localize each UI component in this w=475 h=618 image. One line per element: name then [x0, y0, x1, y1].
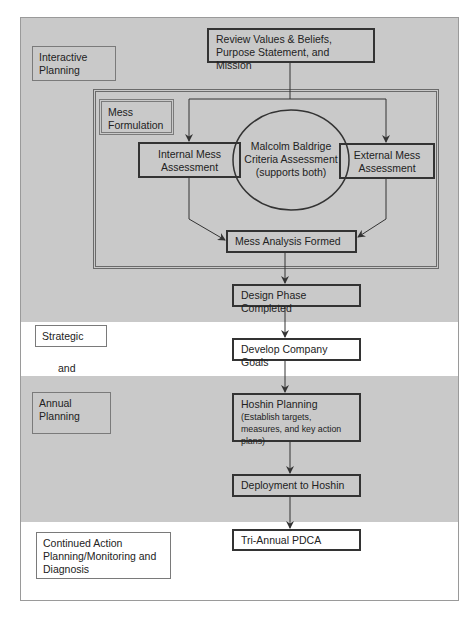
- internal-mess-node: Internal Mess Assessment: [138, 142, 241, 178]
- annual-planning-label: Annual Planning: [32, 392, 111, 434]
- deployment-node: Deployment to Hoshin: [232, 474, 361, 497]
- hoshin-planning-node: Hoshin Planning (Establish targets, meas…: [232, 393, 361, 442]
- tri-annual-pdca-node: Tri-Annual PDCA: [232, 529, 361, 551]
- design-phase-node: Design Phase Completed: [232, 284, 361, 307]
- company-goals-node: Develop Company Goals: [232, 338, 361, 361]
- review-values-node: Review Values & Beliefs, Purpose Stateme…: [207, 28, 375, 63]
- hoshin-subtitle: (Establish targets, measures, and key ac…: [241, 411, 352, 447]
- hoshin-title: Hoshin Planning: [241, 398, 317, 410]
- continued-action-label: Continued Action Planning/Monitoring and…: [36, 532, 171, 579]
- baldrige-criteria-text: Malcolm Baldrige Criteria Assessment (su…: [238, 140, 344, 179]
- mess-formulation-label: Mess Formulation: [99, 99, 174, 135]
- external-mess-node: External Mess Assessment: [339, 143, 435, 179]
- and-label: and: [58, 362, 76, 374]
- mess-analysis-node: Mess Analysis Formed: [226, 230, 357, 253]
- strategic-label: Strategic: [35, 325, 107, 347]
- interactive-planning-label: Interactive Planning: [32, 46, 116, 81]
